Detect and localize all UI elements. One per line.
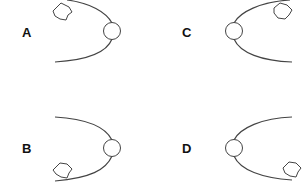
rock-icon-b <box>53 163 72 178</box>
circle-body-d <box>226 140 243 157</box>
orbit-path-a <box>67 0 112 23</box>
orbit-path-c-lower <box>234 39 292 62</box>
orbit-path-b <box>55 117 112 140</box>
panel-c <box>226 0 293 62</box>
panel-b <box>53 117 121 181</box>
rock-icon-a <box>53 3 72 20</box>
diagram-canvas <box>0 0 307 191</box>
circle-body-c <box>226 23 243 40</box>
panel-a <box>53 0 121 62</box>
orbit-path-a-lower <box>55 39 112 62</box>
rock-icon-c <box>274 3 292 19</box>
circle-body-a <box>104 23 121 40</box>
orbit-path-d <box>234 117 292 140</box>
panel-d <box>226 117 302 180</box>
rock-icon-d <box>283 162 301 177</box>
circle-body-b <box>104 140 121 157</box>
